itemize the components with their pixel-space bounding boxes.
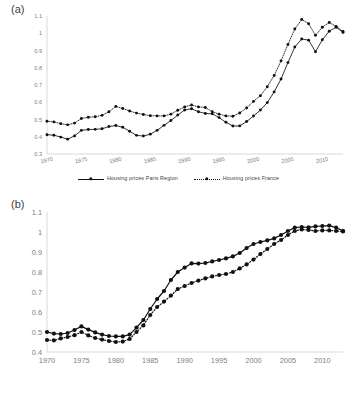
x-axis-tick-label: 1970: [39, 356, 55, 365]
data-point: [328, 21, 331, 24]
data-point: [176, 109, 179, 112]
data-point: [293, 27, 296, 30]
data-point: [327, 224, 331, 228]
data-point: [134, 330, 138, 334]
data-point: [204, 112, 207, 115]
data-point: [176, 270, 180, 274]
data-point: [59, 336, 63, 340]
data-point: [101, 114, 104, 117]
data-point: [80, 129, 83, 132]
data-point: [251, 242, 255, 246]
legend-item: Housing prices Paris Region: [78, 175, 178, 182]
data-point: [231, 125, 234, 128]
data-point: [121, 126, 124, 129]
y-axis-tick-label: 0.7: [34, 82, 42, 88]
data-point: [87, 128, 90, 131]
data-point: [321, 26, 324, 29]
data-point: [108, 125, 111, 128]
data-point: [204, 106, 207, 109]
data-point: [79, 330, 83, 334]
data-point: [286, 43, 289, 46]
data-point: [141, 323, 145, 327]
data-point: [259, 109, 262, 112]
data-point: [203, 261, 207, 265]
data-point: [327, 228, 331, 232]
legend-item: Housing prices France: [194, 175, 279, 182]
data-point: [280, 59, 283, 62]
data-point: [183, 109, 186, 112]
y-axis-tick-label: 0.6: [34, 99, 42, 105]
y-axis-tick-label: 1.1: [34, 13, 42, 19]
data-point: [66, 138, 69, 141]
data-point: [52, 134, 55, 137]
data-point: [293, 46, 296, 49]
data-point: [100, 333, 104, 337]
data-point: [225, 121, 228, 124]
data-point: [149, 133, 152, 136]
data-point: [128, 110, 131, 113]
data-point: [196, 279, 200, 283]
data-point: [183, 284, 187, 288]
data-point: [128, 333, 132, 337]
chart-a-legend: Housing prices Paris RegionHousing price…: [0, 175, 357, 182]
y-axis-tick-label: 0.4: [34, 134, 42, 140]
data-point: [100, 338, 104, 342]
data-point: [163, 124, 166, 127]
x-axis-tick-label: 1995: [212, 156, 225, 164]
chart-a-plot-area: 0.30.40.50.60.70.80.911.1197019751980198…: [0, 0, 357, 176]
data-point: [342, 30, 345, 33]
data-point: [266, 85, 269, 88]
data-point: [286, 61, 289, 64]
data-point: [335, 25, 338, 28]
data-point: [72, 328, 76, 332]
panel-b: (b) 0.40.50.60.70.80.911.119701975198019…: [0, 196, 357, 411]
data-point: [217, 258, 221, 262]
data-point: [189, 281, 193, 285]
data-point: [128, 337, 132, 341]
data-point: [156, 129, 159, 132]
data-point: [190, 107, 193, 110]
data-point: [197, 105, 200, 108]
data-point: [114, 340, 118, 344]
data-point: [94, 115, 97, 118]
series-line-0: [47, 27, 343, 139]
data-point: [300, 225, 304, 229]
data-point: [52, 332, 56, 336]
data-point: [134, 326, 138, 330]
data-point: [313, 224, 317, 228]
data-point: [217, 273, 221, 277]
data-point: [80, 117, 83, 120]
data-point: [169, 119, 172, 122]
data-point: [314, 50, 317, 53]
x-axis-tick-label: 2010: [315, 156, 328, 164]
data-point: [231, 270, 235, 274]
data-point: [197, 110, 200, 113]
data-point: [46, 120, 49, 123]
data-point: [162, 289, 166, 293]
data-point: [321, 38, 324, 41]
data-point: [86, 328, 90, 332]
data-point: [73, 122, 76, 125]
data-point: [245, 120, 248, 123]
x-axis-tick-label: 1980: [109, 156, 122, 164]
data-point: [142, 113, 145, 116]
data-point: [59, 136, 62, 139]
data-point: [176, 114, 179, 117]
x-axis-tick-label: 1985: [143, 156, 156, 164]
data-point: [245, 262, 249, 266]
x-axis-tick-label: 2000: [246, 156, 259, 164]
y-axis-tick-label: 0.6: [32, 308, 42, 317]
data-point: [328, 30, 331, 33]
y-axis-tick-label: 0.9: [34, 48, 42, 54]
data-point: [218, 116, 221, 119]
data-point: [279, 238, 283, 242]
data-point: [114, 334, 118, 338]
data-point: [169, 278, 173, 282]
data-point: [162, 300, 166, 304]
data-point: [251, 258, 255, 262]
data-point: [265, 238, 269, 242]
data-point: [45, 330, 49, 334]
series-line-0: [47, 229, 343, 342]
chart-b-svg: 0.40.50.60.70.80.911.1197019751980198519…: [0, 196, 357, 378]
data-point: [66, 335, 70, 339]
